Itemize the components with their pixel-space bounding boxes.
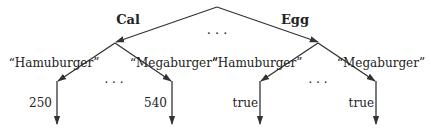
key-label-cal-megaburger: “Megaburger”	[130, 56, 218, 70]
trie-diagram: Cal Egg · · · “Hamuburger” “Megaburger” …	[0, 0, 431, 130]
edge-label-egg: Egg	[281, 12, 309, 27]
key-label-egg-hamuburger: “Hamuburger”	[212, 56, 303, 70]
value-label-true-1: true	[233, 96, 258, 110]
key-label-egg-megaburger: “Megaburger”	[337, 56, 425, 70]
value-label-true-2: true	[349, 96, 374, 110]
edge-label-cal: Cal	[116, 12, 140, 27]
value-label-540: 540	[144, 96, 167, 110]
key-label-cal-hamuburger: “Hamuburger”	[9, 56, 100, 70]
value-label-250: 250	[29, 96, 52, 110]
egg-ellipsis: · · ·	[308, 76, 327, 90]
cal-ellipsis: · · ·	[104, 76, 123, 90]
root-ellipsis: · · ·	[207, 26, 228, 41]
